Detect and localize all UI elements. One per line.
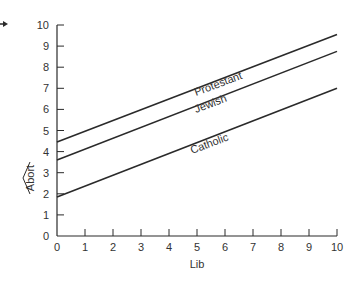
y-axis-title-text: Abort bbox=[24, 165, 36, 191]
x-tick-label: 9 bbox=[306, 241, 312, 253]
x-tick-label: 0 bbox=[54, 241, 60, 253]
corner-arrow-icon bbox=[0, 21, 8, 27]
y-tick-label: 10 bbox=[37, 19, 49, 31]
x-tick-label: 8 bbox=[278, 241, 284, 253]
axes bbox=[57, 25, 337, 236]
x-tick-label: 3 bbox=[138, 241, 144, 253]
x-tick-label: 10 bbox=[331, 241, 343, 253]
y-tick-label: 0 bbox=[43, 230, 49, 242]
x-axis-title: Lib bbox=[190, 258, 205, 270]
axis-ticks: 012345678910012345678910 bbox=[37, 19, 343, 253]
y-tick-label: 3 bbox=[43, 167, 49, 179]
x-tick-label: 6 bbox=[222, 241, 228, 253]
x-tick-label: 1 bbox=[82, 241, 88, 253]
x-tick-label: 5 bbox=[194, 241, 200, 253]
y-tick-label: 2 bbox=[43, 188, 49, 200]
y-tick-label: 1 bbox=[43, 209, 49, 221]
y-tick-label: 8 bbox=[43, 61, 49, 73]
y-tick-label: 7 bbox=[43, 82, 49, 94]
y-tick-label: 4 bbox=[43, 146, 49, 158]
series-lines bbox=[57, 34, 337, 196]
x-tick-label: 4 bbox=[166, 241, 172, 253]
y-tick-label: 9 bbox=[43, 40, 49, 52]
y-axis-title: Abort bbox=[24, 165, 36, 191]
x-tick-label: 2 bbox=[110, 241, 116, 253]
label-catholic: Catholic bbox=[188, 131, 230, 156]
y-tick-label: 5 bbox=[43, 125, 49, 137]
y-tick-label: 6 bbox=[43, 103, 49, 115]
x-tick-label: 7 bbox=[250, 241, 256, 253]
regression-line-chart: 012345678910012345678910 Lib Abort Prote… bbox=[0, 0, 358, 281]
